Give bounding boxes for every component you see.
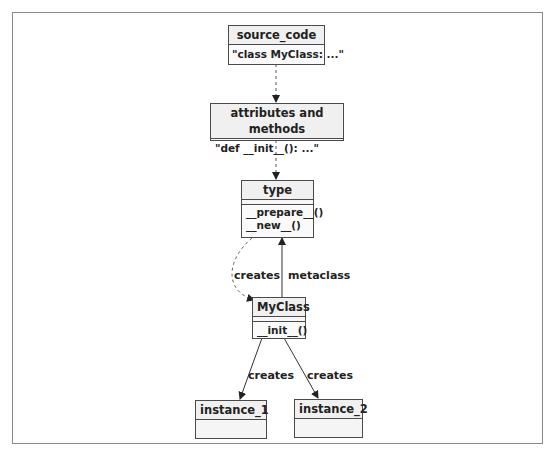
node-title: source_code bbox=[229, 26, 324, 45]
node-instance-2: instance_2 bbox=[294, 399, 363, 438]
node-method: __new__() bbox=[246, 219, 309, 232]
node-title: attributes and methods bbox=[211, 104, 343, 139]
edge-label-creates: creates bbox=[307, 369, 353, 382]
node-body: "class MyClass: ..." bbox=[229, 45, 324, 63]
edge-myclass-creates-instance-2 bbox=[284, 338, 318, 398]
node-body: "def __init__(): ..." bbox=[211, 139, 343, 157]
node-myclass: MyClass __init__() bbox=[252, 297, 306, 339]
node-attributes-and-methods: attributes and methods "def __init__(): … bbox=[210, 103, 344, 141]
node-empty-section bbox=[196, 420, 266, 438]
node-empty-section bbox=[295, 419, 362, 437]
edge-label-creates: creates bbox=[234, 269, 280, 282]
edge-label-metaclass: metaclass bbox=[288, 269, 350, 282]
node-method: __init__() bbox=[253, 322, 305, 339]
node-type: type __prepare__() __new__() bbox=[241, 180, 314, 238]
node-title: MyClass bbox=[253, 298, 305, 317]
node-instance-1: instance_1 bbox=[195, 400, 267, 439]
edge-label-creates: creates bbox=[248, 369, 294, 382]
node-title: type bbox=[242, 181, 313, 200]
node-title: instance_1 bbox=[196, 401, 266, 420]
node-source-code: source_code "class MyClass: ..." bbox=[228, 25, 325, 65]
node-method: __prepare__() bbox=[246, 206, 309, 219]
node-title: instance_2 bbox=[295, 400, 362, 419]
